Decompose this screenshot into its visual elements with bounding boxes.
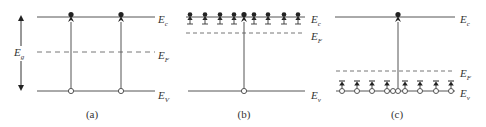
donor-icon: [265, 12, 271, 24]
ev-label: EV: [157, 89, 170, 104]
transition-1: [68, 12, 74, 94]
hole-icon: [118, 88, 123, 93]
hole-icon: [396, 89, 401, 94]
caption-b: (b): [238, 108, 251, 121]
donor-icon: [231, 12, 237, 24]
caption-a: (a): [86, 108, 99, 121]
donor-icon: [217, 12, 223, 24]
transition-2: [118, 12, 124, 94]
panel-a: Eg Ec EF EV (a): [13, 12, 170, 121]
ef-label: EF: [459, 67, 472, 82]
ef-label: EF: [157, 49, 170, 64]
ev-label: Ev: [310, 89, 322, 104]
hole-icon: [391, 89, 396, 94]
panel-c: Ec EF Ev (c): [335, 12, 472, 121]
transition: [241, 12, 247, 94]
ef-label: EF: [310, 30, 323, 45]
donor-icon: [202, 12, 208, 24]
hole-icon: [68, 88, 73, 93]
panel-b: Ec EF Ev (b): [186, 12, 323, 121]
band-diagram: Eg Ec EF EV (a): [0, 0, 486, 127]
ev-label: Ev: [459, 87, 471, 102]
transition: [391, 12, 402, 94]
ec-label: Ec: [459, 13, 471, 28]
ec-label: Ec: [157, 13, 169, 28]
donor-icon: [187, 12, 193, 24]
donor-icon: [281, 12, 287, 24]
donor-icon: [295, 12, 301, 24]
hole-icon: [241, 88, 246, 93]
caption-c: (c): [391, 108, 404, 121]
donor-icon: [251, 12, 257, 24]
band-gap-label: Eg: [13, 46, 25, 61]
ec-label: Ec: [310, 13, 322, 28]
